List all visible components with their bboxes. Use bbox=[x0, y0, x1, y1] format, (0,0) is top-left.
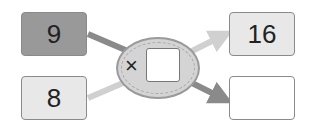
output-box-16: 16 bbox=[229, 12, 295, 56]
multiply-symbol: × bbox=[125, 53, 138, 79]
input-box-9: 9 bbox=[21, 12, 87, 56]
input-box-8: 8 bbox=[21, 76, 87, 120]
output-answer-box[interactable] bbox=[229, 76, 295, 120]
operand-answer-box[interactable] bbox=[146, 48, 180, 82]
